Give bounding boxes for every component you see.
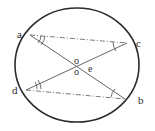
dashdot-line-d-b — [26, 90, 125, 99]
vertex-label-b: b — [138, 95, 144, 106]
center-label-o-lower: o — [74, 67, 79, 77]
vertex-label-a: a — [17, 29, 22, 40]
geometry-figure: a c d b o o e — [0, 0, 155, 131]
center-label-o-upper: o — [74, 56, 79, 66]
vertex-label-c: c — [136, 38, 141, 49]
vertex-label-d: d — [12, 85, 18, 96]
center-label-e: e — [88, 64, 92, 74]
